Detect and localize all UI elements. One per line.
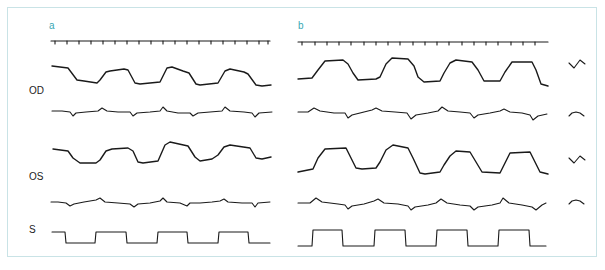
os-position-b <box>298 145 548 174</box>
stimulus-a <box>52 232 270 243</box>
os-position-a <box>53 142 271 163</box>
position-calibration-icon <box>569 60 585 68</box>
od-position-b <box>298 58 548 86</box>
time-marker-a <box>51 41 270 44</box>
position-calibration-icon <box>569 156 585 163</box>
od-velocity-a <box>52 107 272 117</box>
time-marker-b <box>298 42 548 45</box>
od-position-a <box>52 66 271 86</box>
os-velocity-a <box>51 198 270 207</box>
os-velocity-b <box>298 198 546 210</box>
traces-canvas <box>0 0 605 270</box>
od-velocity-b <box>298 107 547 120</box>
stimulus-b <box>298 230 546 246</box>
velocity-calibration-icon <box>569 200 584 204</box>
velocity-calibration-icon <box>569 112 584 116</box>
